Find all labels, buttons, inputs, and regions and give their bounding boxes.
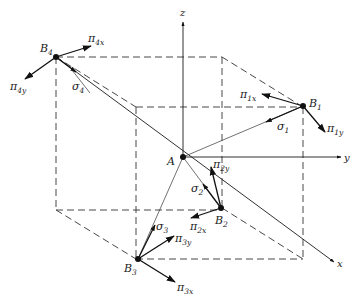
label-B4: B4 bbox=[39, 42, 53, 57]
member-force-arrows bbox=[56, 57, 303, 259]
label-pi1y: π1y bbox=[326, 122, 344, 137]
pi1x-arrow bbox=[262, 94, 303, 106]
label-pi1x: π1x bbox=[239, 88, 257, 103]
label-pi2y: π2y bbox=[212, 158, 230, 173]
node-B1 bbox=[300, 103, 306, 109]
z-axis-label: z bbox=[179, 7, 186, 18]
label-pi2x: π2x bbox=[189, 220, 207, 235]
node-B4 bbox=[53, 54, 59, 60]
label-A: A bbox=[166, 155, 175, 168]
node-A bbox=[180, 154, 186, 160]
label-pi4y: π4y bbox=[9, 80, 27, 95]
pi4y-arrow bbox=[25, 57, 56, 79]
label-sigma4: σ4 bbox=[72, 80, 85, 95]
load-arrows bbox=[25, 46, 325, 282]
label-sigma1: σ1 bbox=[277, 120, 289, 135]
label-B3: B3 bbox=[123, 262, 137, 277]
label-sigma2: σ2 bbox=[191, 182, 204, 197]
label-B1: B1 bbox=[308, 97, 322, 112]
truss-cube-diagram: z y x A B4 π4x bbox=[0, 0, 354, 298]
cube-edges bbox=[56, 57, 303, 259]
sigma4-arrow bbox=[56, 57, 76, 72]
x-axis-label: x bbox=[337, 258, 343, 269]
label-pi4x: π4x bbox=[87, 32, 105, 47]
y-axis-label: y bbox=[343, 152, 350, 163]
label-sigma3: σ3 bbox=[156, 220, 169, 235]
node-B2 bbox=[218, 205, 224, 211]
pi3x-arrow bbox=[138, 259, 175, 282]
labels: A B4 π4x π4y σ4 B1 π1x π1y σ1 B2 π2x π2y… bbox=[9, 32, 344, 296]
pi4x-arrow bbox=[56, 46, 91, 57]
node-B3 bbox=[135, 256, 141, 262]
label-pi3y: π3y bbox=[174, 232, 192, 247]
nodes bbox=[53, 54, 306, 262]
label-pi3x: π3x bbox=[176, 281, 194, 296]
label-B2: B2 bbox=[214, 214, 228, 229]
